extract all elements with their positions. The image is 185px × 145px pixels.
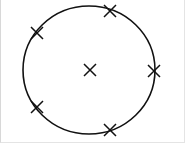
- circumference-cross-mark-4-icon: [31, 101, 43, 113]
- center-cross-mark-icon: [84, 64, 96, 76]
- circumference-cross-mark-3-icon: [148, 65, 160, 77]
- cross-marks: [31, 5, 160, 136]
- circle-diagram: [0, 0, 185, 145]
- circumference-cross-mark-2-icon: [31, 27, 43, 39]
